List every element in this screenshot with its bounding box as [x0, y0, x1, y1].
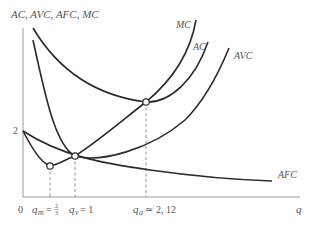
- avc-min-point: [72, 153, 78, 159]
- y-tick-2: 2: [13, 125, 18, 136]
- avc-label: AVC: [233, 50, 253, 61]
- ac-min-point: [143, 99, 149, 105]
- mc-min-point: [47, 163, 53, 169]
- ac-curve: [33, 28, 208, 102]
- ac-label: AC: [192, 41, 206, 52]
- svg-text:a: a: [139, 208, 143, 217]
- qv-tick-label: q v = 1: [69, 203, 93, 217]
- svg-text:3: 3: [55, 210, 58, 216]
- qa-tick-label: q a ≃ 2, 12: [133, 203, 176, 217]
- svg-text:2: 2: [55, 203, 58, 209]
- afc-label: AFC: [277, 169, 297, 180]
- mc-label: MC: [175, 19, 191, 30]
- svg-text:=: =: [46, 204, 52, 215]
- svg-text:m: m: [38, 208, 44, 217]
- origin-label: 0: [18, 204, 23, 215]
- qm-tick-label: q m = 2 3: [32, 203, 59, 217]
- svg-text:v: v: [75, 208, 79, 217]
- cost-curves-chart: AC, AVC, AFC, MC q 0 2 MC AC AVC AFC q m…: [0, 0, 311, 230]
- x-axis-label: q: [296, 203, 302, 215]
- svg-text:≃ 2, 12: ≃ 2, 12: [145, 204, 176, 215]
- svg-text:= 1: = 1: [80, 204, 93, 215]
- y-axis-label: AC, AVC, AFC, MC: [10, 8, 99, 20]
